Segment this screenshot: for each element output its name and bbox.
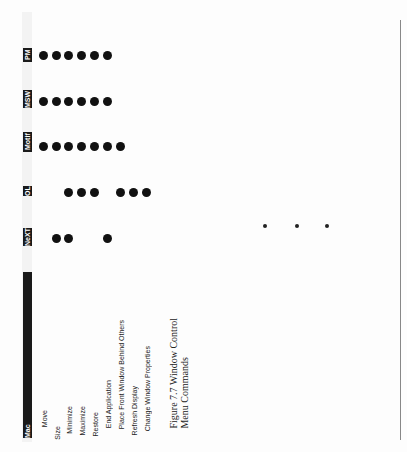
support-dot	[116, 188, 125, 197]
row-label-place-front-window: Place Front Window Behind Others	[117, 320, 126, 429]
figure-caption: Figure 7.7 Window Control Menu Commands	[168, 318, 190, 429]
caption-line-2: Menu Commands	[179, 318, 190, 429]
row-label-refresh-display: Refresh Display	[130, 386, 139, 435]
support-dot	[64, 142, 73, 151]
column-header-next: NeXT	[23, 228, 32, 246]
support-dot	[103, 51, 112, 60]
support-dot	[77, 142, 86, 151]
support-dot	[142, 188, 151, 197]
support-dot	[103, 234, 112, 243]
column-header-ol: OL	[23, 186, 32, 196]
book-page: PM MSW Motif OL NeXT Mac Move Size Minim…	[0, 0, 407, 452]
row-label-maximize: Maximize	[78, 406, 87, 436]
support-dot	[90, 188, 99, 197]
row-label-restore: Restore	[91, 412, 100, 437]
support-dot	[103, 142, 112, 151]
support-dot	[52, 142, 61, 151]
support-dot	[90, 51, 99, 60]
row-label-size: Size	[53, 426, 62, 440]
support-dot	[116, 142, 125, 151]
support-dot	[129, 188, 138, 197]
column-header-mac: Mac	[23, 272, 32, 438]
caption-line-1: Figure 7.7 Window Control	[168, 318, 179, 429]
stray-mark	[295, 224, 299, 228]
support-dot	[90, 97, 99, 106]
column-header-motif: Motif	[23, 132, 32, 152]
support-dot	[52, 234, 61, 243]
support-dot	[52, 97, 61, 106]
column-header-pm: PM	[23, 48, 32, 62]
stray-mark	[263, 224, 267, 228]
support-dot	[64, 97, 73, 106]
support-dot	[103, 97, 112, 106]
page-rule	[400, 20, 401, 440]
support-dot	[39, 97, 48, 106]
support-dot	[52, 51, 61, 60]
support-dot	[39, 142, 48, 151]
support-dot	[64, 234, 73, 243]
column-header-msw: MSW	[23, 90, 32, 108]
row-label-end-application: End Application	[104, 380, 113, 428]
support-dot	[64, 51, 73, 60]
row-label-minimize: Minimize	[65, 406, 74, 434]
row-label-move: Move	[40, 410, 49, 427]
support-dot	[39, 51, 48, 60]
support-dot	[90, 142, 99, 151]
support-dot	[64, 188, 73, 197]
support-dot	[77, 188, 86, 197]
row-label-change-window-properties: Change Window Properties	[143, 346, 152, 431]
support-dot	[77, 51, 86, 60]
stray-mark	[325, 224, 329, 228]
support-dot	[77, 97, 86, 106]
